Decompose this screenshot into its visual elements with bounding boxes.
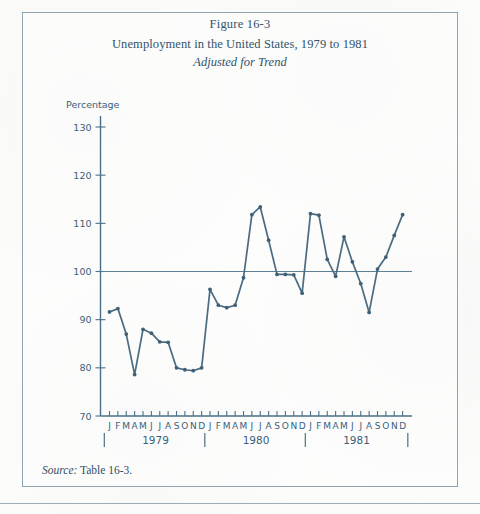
data-point (225, 306, 229, 310)
data-point (242, 276, 246, 280)
month-label: D (198, 421, 205, 431)
y-tick-label: 130 (73, 122, 91, 133)
data-point (283, 272, 287, 276)
data-point (342, 235, 346, 239)
figure-page: Figure 16-3 Unemployment in the United S… (0, 0, 480, 514)
data-point (258, 205, 262, 209)
month-label: F (216, 421, 221, 431)
month-label: S (274, 421, 280, 431)
data-point (267, 238, 271, 242)
x-axis-ticks (110, 411, 403, 416)
month-label: J (107, 421, 111, 431)
data-point (175, 366, 179, 370)
y-tick-label: 90 (79, 314, 91, 325)
data-point (392, 233, 396, 237)
month-label: J (157, 421, 161, 431)
data-point (216, 303, 220, 307)
month-label: M (340, 421, 348, 431)
data-point (350, 260, 354, 264)
month-label: O (382, 421, 389, 431)
month-label: O (181, 421, 188, 431)
month-label: A (366, 421, 373, 431)
data-point (250, 213, 254, 217)
month-label: O (282, 421, 289, 431)
data-point (133, 373, 137, 377)
y-tick-label: 120 (73, 170, 91, 181)
month-label: A (165, 421, 172, 431)
year-label: 1981 (343, 434, 370, 446)
month-label: A (266, 421, 273, 431)
year-label: 1979 (142, 434, 169, 446)
month-label: A (132, 421, 139, 431)
data-point (275, 272, 279, 276)
x-axis-month-labels: JFMAMJJASONDJFMAMJJASONDJFMAMJJASOND (107, 421, 406, 431)
data-point (124, 332, 128, 336)
month-label: M (139, 421, 147, 431)
y-tick-label: 100 (73, 266, 91, 277)
data-point (401, 213, 405, 217)
month-label: M (323, 421, 331, 431)
data-point (233, 303, 237, 307)
month-label: N (290, 421, 297, 431)
data-point (367, 311, 371, 315)
bottom-rule (0, 503, 480, 504)
data-point (149, 331, 153, 335)
month-label: J (358, 421, 362, 431)
source-note: Source: Table 16-3. (42, 464, 132, 476)
month-label: M (223, 421, 231, 431)
data-point (292, 273, 296, 277)
month-label: D (299, 421, 306, 431)
data-point (334, 274, 338, 278)
month-label: N (190, 421, 197, 431)
x-axis-year-labels: 197919801981 (142, 434, 370, 446)
y-tick-label: 80 (79, 362, 91, 373)
month-label: J (308, 421, 312, 431)
y-tick-label: 70 (79, 411, 91, 422)
month-label: S (375, 421, 381, 431)
month-label: J (258, 421, 262, 431)
month-label: J (250, 421, 254, 431)
month-label: J (149, 421, 153, 431)
source-text: Table 16-3. (77, 464, 132, 476)
month-label: D (399, 421, 406, 431)
data-point (108, 310, 112, 314)
data-point (183, 368, 187, 372)
month-label: S (174, 421, 180, 431)
data-point (359, 282, 363, 286)
data-point (141, 327, 145, 331)
y-tick-label: 110 (73, 218, 91, 229)
month-label: J (208, 421, 212, 431)
month-label: J (350, 421, 354, 431)
data-point (384, 255, 388, 259)
data-point (376, 267, 380, 271)
month-label: N (391, 421, 398, 431)
chart-plot: 708090100110120130 JFMAMJJASONDJFMAMJJAS… (0, 0, 480, 514)
month-label: M (122, 421, 130, 431)
unemployment-series-points (108, 205, 405, 376)
source-label: Source: (42, 464, 77, 476)
month-label: F (316, 421, 321, 431)
month-label: M (240, 421, 248, 431)
year-label: 1980 (243, 434, 270, 446)
data-point (166, 340, 170, 344)
data-point (200, 366, 204, 370)
data-point (325, 258, 329, 262)
data-point (208, 287, 212, 291)
month-label: F (115, 421, 120, 431)
data-point (317, 213, 321, 217)
data-point (158, 340, 162, 344)
data-point (191, 369, 195, 373)
unemployment-series-line (110, 207, 403, 375)
month-label: A (232, 421, 239, 431)
data-point (300, 291, 304, 295)
data-point (116, 307, 120, 311)
month-label: A (333, 421, 340, 431)
data-point (309, 212, 313, 216)
